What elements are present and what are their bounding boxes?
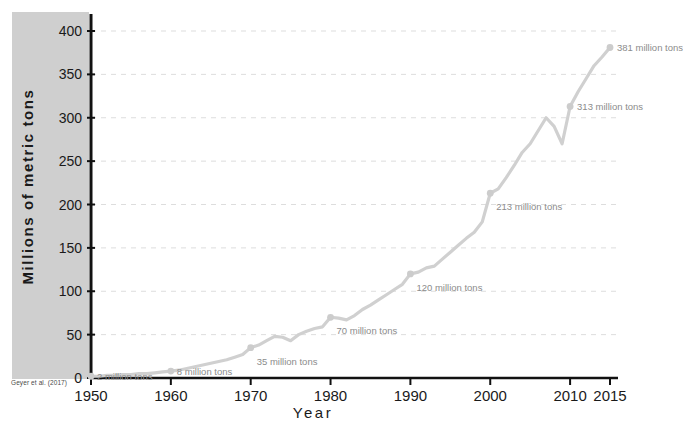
x-tick-label: 2015 — [593, 387, 626, 404]
data-point-label: 313 million tons — [577, 101, 643, 112]
data-point-marker — [88, 373, 95, 380]
data-point-label: 120 million tons — [416, 281, 482, 292]
data-point-label: 70 million tons — [337, 325, 398, 336]
data-point-marker — [607, 44, 614, 51]
axes-group — [91, 14, 618, 378]
y-tick-label: 50 — [36, 327, 82, 343]
y-tick-label: 300 — [36, 110, 82, 126]
source-attribution: Geyer et al. (2017) — [11, 379, 67, 386]
y-tick-label: 350 — [36, 66, 82, 82]
y-tick-label: 200 — [36, 197, 82, 213]
y-tick-label: 400 — [36, 23, 82, 39]
y-tick-label: 250 — [36, 153, 82, 169]
data-point-marker — [567, 103, 574, 110]
x-tick-label: 2010 — [553, 387, 586, 404]
data-point-label: 8 million tons — [177, 366, 232, 377]
x-axis-title: Year — [0, 404, 626, 421]
data-point-label: 2 million tons — [97, 371, 152, 382]
data-point-marker — [487, 190, 494, 197]
data-point-label: 35 million tons — [257, 355, 318, 366]
data-point-label: 381 million tons — [617, 42, 683, 53]
x-tick-label: 1990 — [394, 387, 427, 404]
gridlines-group — [91, 31, 618, 335]
x-tick-label: 1970 — [234, 387, 267, 404]
data-point-marker — [167, 368, 174, 375]
data-point-label: 213 million tons — [496, 201, 562, 212]
x-tick-label: 1980 — [314, 387, 347, 404]
y-tick-label: 100 — [36, 283, 82, 299]
x-tick-label: 2000 — [474, 387, 507, 404]
data-point-marker — [327, 314, 334, 321]
x-tick-label: 1950 — [74, 387, 107, 404]
y-tick-label: 150 — [36, 240, 82, 256]
x-tick-label: 1960 — [154, 387, 187, 404]
data-point-marker — [407, 271, 414, 278]
data-point-marker — [247, 344, 254, 351]
